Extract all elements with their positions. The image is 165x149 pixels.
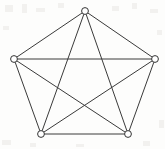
graph-vertex-bottom_right <box>125 131 132 138</box>
vertex-layer <box>11 8 159 138</box>
graph-canvas <box>0 0 165 149</box>
graph-edge-top-bottom_right <box>85 11 128 134</box>
graph-vertex-left <box>11 56 18 63</box>
graph-edge-right-bottom_left <box>41 59 155 134</box>
graph-edge-top-left <box>14 11 85 59</box>
graph-edge-left-bottom_left <box>14 59 41 134</box>
graph-vertex-top <box>82 8 89 15</box>
graph-edge-top-right <box>85 11 155 59</box>
graph-edge-left-bottom_right <box>14 59 128 134</box>
graph-edge-right-bottom_right <box>128 59 155 134</box>
edge-layer <box>14 11 155 134</box>
graph-vertex-right <box>152 56 159 63</box>
graph-edge-top-bottom_left <box>41 11 85 134</box>
graph-vertex-bottom_left <box>38 131 45 138</box>
graph-figure <box>0 0 165 149</box>
